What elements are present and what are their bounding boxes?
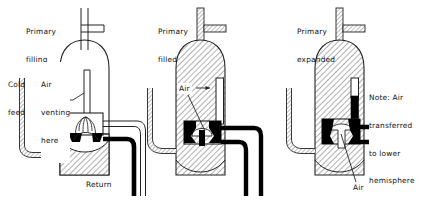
panel-2-air-label: Air bbox=[177, 83, 192, 94]
note-line2: transferred bbox=[369, 121, 415, 130]
panel-2-air-standpipe bbox=[216, 78, 224, 124]
panel-3-air-label: Air bbox=[352, 183, 365, 192]
panel-3-title-line1: Primary bbox=[297, 27, 335, 36]
air-venting-line1: Air bbox=[41, 80, 70, 89]
panel-2-center-stem bbox=[199, 130, 205, 146]
panel-1-cold-feed-label: Cold feed bbox=[8, 62, 25, 136]
note-line3: to lower bbox=[369, 149, 415, 158]
panel-2-title: Primary filled bbox=[158, 9, 188, 83]
cold-feed-line2: feed bbox=[8, 108, 25, 117]
panel-3-standpipe-upper bbox=[351, 78, 359, 98]
note-line4: hemisphere bbox=[369, 176, 415, 185]
panel-2-title-line1: Primary bbox=[158, 27, 188, 36]
panel-1-title-line1: Primary bbox=[26, 27, 56, 36]
air-venting-line3: here bbox=[41, 136, 70, 145]
panel-2-cold-feed-pipe bbox=[148, 88, 177, 154]
panel-2-outlet-pipe-1 bbox=[221, 128, 261, 196]
panel-3-title: Primary expanded bbox=[297, 9, 335, 83]
panel-1-valve-body bbox=[68, 113, 103, 135]
diagram-canvas: Primary filling Cold feed Air venting he… bbox=[0, 0, 440, 203]
panel-1-top-nozzle bbox=[81, 8, 104, 50]
panel-3-title-line2: expanded bbox=[297, 55, 335, 64]
cold-feed-line1: Cold bbox=[8, 80, 25, 89]
air-venting-line2: venting bbox=[41, 108, 70, 117]
panel-2-title-line2: filled bbox=[158, 55, 188, 64]
note-line1: Note: Air bbox=[369, 93, 415, 102]
panel-1-return-label: Return bbox=[86, 180, 112, 189]
panel-1-vent-standpipe bbox=[84, 70, 90, 113]
panel-1-air-venting-label: Air venting here bbox=[41, 62, 70, 163]
panel-3-standpipe-lower-filled bbox=[351, 96, 359, 122]
panel-3-cold-feed-pipe bbox=[287, 88, 316, 154]
panel-3-note-label: Note: Air transferred to lower hemispher… bbox=[369, 75, 415, 203]
